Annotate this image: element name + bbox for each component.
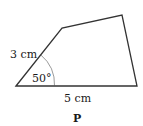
side-bottom-label: 5 cm	[64, 92, 92, 105]
angle-label: 50°	[32, 72, 52, 85]
quadrilateral-diagram: 3 cm 50° 5 cm P	[0, 0, 143, 126]
shape-name-label: P	[73, 112, 81, 125]
side-left-label: 3 cm	[10, 48, 38, 61]
